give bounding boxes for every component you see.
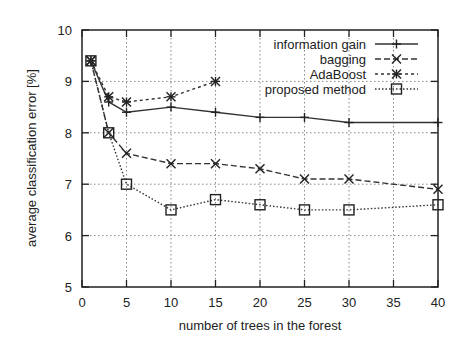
y-tick-label: 10: [58, 23, 72, 38]
x-tick-label: 25: [297, 295, 311, 310]
y-tick-label: 9: [65, 74, 72, 89]
x-tick-label: 40: [431, 295, 445, 310]
series-proposed-method: [86, 56, 443, 215]
legend: information gainbaggingAdaBoostproposed …: [265, 37, 418, 97]
x-tick-label: 30: [342, 295, 356, 310]
legend-label: AdaBoost: [310, 67, 367, 82]
legend-label: proposed method: [265, 82, 366, 97]
grid-lines: [82, 30, 438, 287]
plus-marker-icon: [167, 103, 176, 112]
y-tick-label: 7: [65, 177, 72, 192]
plus-marker-icon: [300, 113, 309, 122]
x-tick-label: 5: [123, 295, 130, 310]
data-series: [86, 56, 443, 215]
legend-label: information gain: [274, 37, 367, 52]
plus-marker-icon: [122, 108, 131, 117]
plus-marker-icon: [256, 113, 265, 122]
x-tick-label: 0: [78, 295, 85, 310]
star-marker-icon: [86, 56, 95, 65]
series-bagging: [86, 56, 442, 194]
series-line: [91, 61, 438, 190]
star-marker-icon: [392, 70, 401, 79]
y-tick-label: 8: [65, 126, 72, 141]
star-marker-icon: [167, 92, 176, 101]
line-chart: 05101520253035405678910 information gain…: [0, 0, 471, 349]
x-tick-label: 20: [253, 295, 267, 310]
x-axis-label: number of trees in the forest: [179, 318, 342, 333]
plus-marker-icon: [211, 108, 220, 117]
star-marker-icon: [104, 92, 113, 101]
legend-label: bagging: [320, 52, 366, 67]
y-tick-label: 5: [65, 280, 72, 295]
x-tick-label: 35: [386, 295, 400, 310]
star-marker-icon: [122, 97, 131, 106]
x-marker-icon: [256, 164, 265, 173]
plus-marker-icon: [345, 118, 354, 127]
y-tick-label: 6: [65, 229, 72, 244]
y-axis-label: average classification error [%]: [24, 69, 39, 247]
axes: 05101520253035405678910: [58, 23, 446, 310]
x-tick-label: 15: [208, 295, 222, 310]
x-tick-label: 10: [164, 295, 178, 310]
plus-marker-icon: [434, 118, 443, 127]
star-marker-icon: [211, 77, 220, 86]
